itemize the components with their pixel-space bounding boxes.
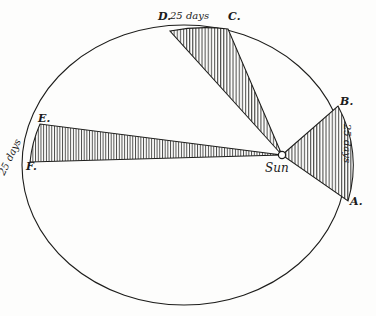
orbit-diagram: A. B. C. D. E. F. 25 days 25 days 25 day…	[0, 0, 376, 316]
duration-label-top: 25 days	[170, 11, 209, 21]
sun-marker	[278, 151, 285, 158]
point-label-e: E.	[38, 113, 51, 124]
orbit-svg	[0, 0, 376, 316]
point-label-b: B.	[340, 96, 354, 107]
sector-cd	[170, 28, 282, 155]
point-label-f: F.	[26, 161, 37, 172]
point-label-a: A.	[350, 196, 363, 207]
sun-label: Sun	[265, 162, 289, 174]
duration-label-right: 25 days	[342, 124, 352, 163]
sector-ef	[30, 124, 282, 162]
point-label-c: C.	[228, 11, 241, 22]
